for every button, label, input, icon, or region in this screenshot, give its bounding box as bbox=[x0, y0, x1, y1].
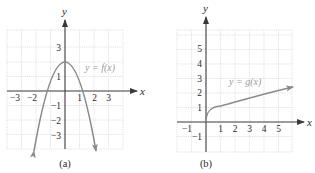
x-tick-a: 3 bbox=[106, 93, 111, 103]
y-tick-a: −3 bbox=[51, 131, 61, 141]
equation-label-b: y = g(x) bbox=[228, 76, 262, 88]
x-axis-label-a: x bbox=[139, 85, 145, 97]
x-tick-b: 2 bbox=[233, 124, 238, 134]
y-axis-label-b: y bbox=[202, 2, 208, 14]
x-tick-a: −2 bbox=[27, 93, 37, 103]
y-tick-a: −2 bbox=[51, 116, 61, 126]
x-tick-a: −3 bbox=[10, 93, 20, 103]
y-tick-b: 1 bbox=[197, 103, 202, 113]
x-tick-b: 4 bbox=[262, 124, 267, 134]
x-tick-b: 1 bbox=[218, 124, 223, 134]
x-tick-b: 5 bbox=[276, 124, 281, 134]
y-tick-b: −1 bbox=[192, 132, 202, 142]
x-tick-a: 2 bbox=[92, 93, 97, 103]
caption-b: (b) bbox=[200, 158, 213, 170]
equation-label-a: y = f(x) bbox=[84, 62, 116, 74]
x-tick-b: −1 bbox=[182, 124, 192, 134]
figure: x y −3 −2 1 2 3 3 1 −1 −2 −3 y = f(x) (a… bbox=[0, 0, 315, 173]
y-tick-b: 3 bbox=[197, 74, 202, 84]
y-axis-label-a: y bbox=[61, 5, 67, 17]
y-tick-b: 5 bbox=[197, 44, 202, 54]
y-tick-a: −1 bbox=[51, 101, 61, 111]
panel-a: x y −3 −2 1 2 3 3 1 −1 −2 −3 y = f(x) (a… bbox=[7, 5, 145, 170]
y-tick-a: 1 bbox=[56, 72, 61, 82]
x-tick-a: 1 bbox=[77, 93, 82, 103]
x-tick-b: 3 bbox=[247, 124, 252, 134]
y-tick-b: 2 bbox=[197, 88, 202, 98]
caption-a: (a) bbox=[59, 158, 71, 170]
y-tick-b: 4 bbox=[197, 59, 202, 69]
y-tick-a: 3 bbox=[56, 43, 61, 53]
x-axis-label-b: x bbox=[306, 116, 312, 128]
panel-b: x y −1 1 2 3 4 5 5 4 3 2 1 −1 y = g(x) (… bbox=[177, 2, 312, 170]
